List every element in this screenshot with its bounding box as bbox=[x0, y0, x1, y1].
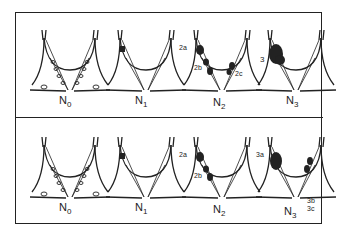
stage-label: N0 bbox=[59, 94, 71, 109]
node-tag: 3 bbox=[260, 56, 264, 63]
diagram-r1-n3: 3 N3 bbox=[262, 30, 332, 110]
neck-lymph-diagram bbox=[112, 137, 182, 207]
stage-label: N0 bbox=[59, 201, 71, 216]
stage-label: N2 bbox=[213, 203, 225, 218]
diagram-r2-n1: N1 bbox=[112, 137, 182, 217]
node-tag: 2c bbox=[235, 70, 242, 77]
diagram-r2-n0: N0 bbox=[36, 137, 106, 217]
stage-label: N3 bbox=[286, 94, 298, 109]
neck-lymph-diagram bbox=[36, 30, 106, 100]
node-tag: 3a bbox=[256, 151, 264, 158]
stage-label: N2 bbox=[213, 96, 225, 111]
neck-lymph-diagram bbox=[262, 137, 332, 207]
diagram-r2-n2: 2a 2b N2 bbox=[188, 137, 258, 217]
node-tag: 3c bbox=[307, 205, 314, 212]
diagram-r2-n3: 3a 3b 3c N3 bbox=[262, 137, 332, 217]
stage-label: N3 bbox=[284, 205, 296, 220]
node-tag: 2a bbox=[179, 151, 187, 158]
neck-lymph-diagram bbox=[36, 137, 106, 207]
node-tag: 3b bbox=[307, 197, 315, 204]
node-tag: 2b bbox=[194, 64, 202, 71]
stage-label: N1 bbox=[135, 201, 147, 216]
row-divider bbox=[15, 117, 323, 118]
neck-lymph-diagram bbox=[112, 30, 182, 100]
stage-label: N1 bbox=[135, 94, 147, 109]
diagram-r1-n1: N1 bbox=[112, 30, 182, 110]
neck-lymph-diagram bbox=[262, 30, 332, 100]
node-tag: 2b bbox=[194, 172, 202, 179]
node-tag: 2a bbox=[179, 44, 187, 51]
diagram-r1-n0: N0 bbox=[36, 30, 106, 110]
diagram-r1-n2: 2a 2b 2c N2 bbox=[188, 30, 258, 110]
